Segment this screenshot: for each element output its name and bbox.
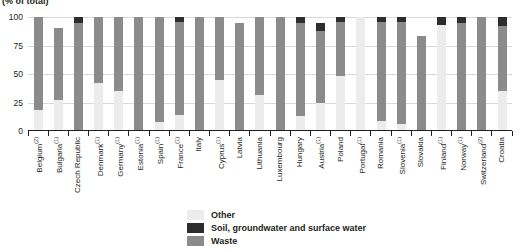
tick-mark (472, 131, 492, 136)
tick-mark (210, 131, 230, 136)
tick-mark (351, 131, 371, 136)
bar-denmark[interactable] (94, 17, 103, 131)
x-label-austria: Austria(1) (315, 137, 327, 169)
bar-cyprus[interactable] (215, 17, 224, 131)
x-label-lithuania: Lithuania (256, 137, 264, 169)
tick-mark (129, 131, 149, 136)
bar-luxembourg[interactable] (276, 17, 285, 131)
legend-item[interactable]: Other (187, 209, 366, 220)
bar-austria[interactable] (316, 17, 325, 131)
x-label-slot: Hungary (290, 137, 310, 205)
legend-label: Other (211, 210, 235, 220)
chart-figure: (% of total) 1007550250 Belgium(2)Bulgar… (0, 0, 522, 251)
units-caption: (% of total) (2, 0, 49, 6)
bar-poland[interactable] (336, 17, 345, 131)
x-label-slot: Slovenia(1) (391, 137, 411, 205)
bar-slot (492, 17, 512, 131)
bar-slot (270, 17, 290, 131)
segment-other (296, 116, 305, 131)
y-tick-75: 75 (14, 41, 23, 50)
bar-finland[interactable] (437, 17, 446, 131)
legend: OtherSoil, groundwater and surface water… (187, 209, 366, 246)
bar-switzerland[interactable] (477, 17, 486, 131)
x-label-france: France(1) (173, 137, 185, 169)
x-label-luxembourg: Luxembourg (276, 137, 284, 181)
bar-latvia[interactable] (235, 17, 244, 131)
x-label-finland: Finland(1) (436, 137, 448, 170)
tick-mark (169, 131, 189, 136)
x-label-croatia: Croatia (498, 137, 506, 163)
bar-belgium[interactable] (34, 17, 43, 131)
bar-hungary[interactable] (296, 17, 305, 131)
x-label-slot: Lithuania (250, 137, 270, 205)
x-label-slovenia: Slovenia(1) (395, 137, 407, 174)
x-label-slot: Finland(1) (431, 137, 451, 205)
other-swatch (187, 210, 204, 220)
x-label-slovakia: Slovakia (417, 137, 425, 167)
bar-norway[interactable] (457, 17, 466, 131)
bar-italy[interactable] (195, 17, 204, 131)
segment-waste (54, 28, 63, 100)
x-label-spain: Spain(1) (153, 137, 165, 164)
x-label-denmark: Denmark(1) (93, 137, 105, 176)
segment-other (54, 100, 63, 131)
bar-czech-republic[interactable] (74, 17, 83, 131)
tick-mark (48, 131, 68, 136)
segment-waste (195, 17, 204, 131)
bar-estonia[interactable] (134, 17, 143, 131)
bar-romania[interactable] (377, 17, 386, 131)
bar-slot (129, 17, 149, 131)
bar-slot (411, 17, 431, 131)
legend-item[interactable]: Soil, groundwater and surface water (187, 222, 366, 233)
bar-croatia[interactable] (498, 17, 507, 131)
bar-slot (391, 17, 411, 131)
bar-slot (89, 17, 109, 131)
x-label-belgium: Belgium(2) (32, 137, 44, 173)
x-label-slot: Spain(1) (149, 137, 169, 205)
bar-slovakia[interactable] (417, 17, 426, 131)
segment-other (175, 115, 184, 131)
bar-group (28, 17, 512, 131)
y-tick-100: 100 (9, 13, 23, 22)
y-axis-labels: 1007550250 (0, 17, 26, 131)
bar-spain[interactable] (155, 17, 164, 131)
x-label-czech-republic: Czech Republic (74, 137, 82, 193)
tick-mark (149, 131, 169, 136)
x-label-slot: Croatia (492, 137, 512, 205)
x-label-bulgaria: Bulgaria(1) (52, 137, 64, 173)
bar-portugal[interactable] (356, 17, 365, 131)
tick-mark (452, 131, 472, 136)
segment-other (34, 110, 43, 131)
segment-waste (498, 26, 507, 91)
segment-waste (417, 36, 426, 131)
bar-slot (68, 17, 88, 131)
legend-item[interactable]: Waste (187, 235, 366, 246)
segment-other (114, 91, 123, 131)
segment-waste (114, 17, 123, 91)
tick-mark (371, 131, 391, 136)
waste-swatch (187, 236, 204, 246)
segment-waste (34, 17, 43, 110)
x-label-cyprus: Cyprus(1) (214, 137, 226, 169)
segment-waste (397, 22, 406, 125)
bar-germany[interactable] (114, 17, 123, 131)
segment-other (255, 95, 264, 131)
tick-mark (68, 131, 88, 136)
segment-other (94, 83, 103, 131)
bar-slovenia[interactable] (397, 17, 406, 131)
y-tick-0: 0 (18, 127, 23, 136)
x-label-slot: Cyprus(1) (210, 137, 230, 205)
x-label-slot: Luxembourg (270, 137, 290, 205)
segment-soil (498, 17, 507, 26)
soil-swatch (187, 223, 204, 233)
y-tick-50: 50 (14, 70, 23, 79)
x-axis-ticks (28, 131, 512, 136)
x-label-slot: Portugal(1) (351, 137, 371, 205)
bar-lithuania[interactable] (255, 17, 264, 131)
x-label-norway: Norway(1) (456, 137, 468, 171)
segment-waste (155, 17, 164, 122)
bar-france[interactable] (175, 17, 184, 131)
bar-bulgaria[interactable] (54, 17, 63, 131)
segment-other (437, 25, 446, 131)
bar-slot (169, 17, 189, 131)
